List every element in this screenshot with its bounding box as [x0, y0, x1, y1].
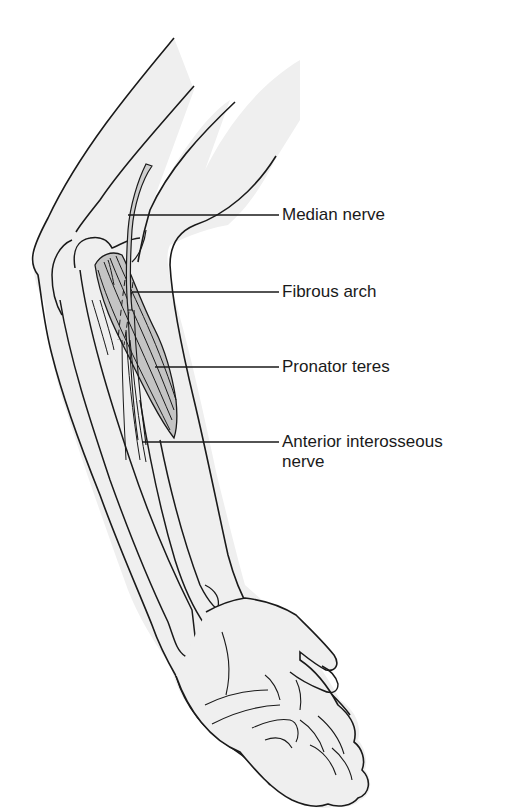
- anatomy-figure: Median nerve Fibrous arch Pronator teres…: [0, 0, 514, 812]
- label-anterior-interosseous-line1: Anterior interosseous: [282, 432, 443, 452]
- label-anterior-interosseous-line2: nerve: [282, 452, 325, 472]
- label-median-nerve: Median nerve: [282, 205, 385, 225]
- label-fibrous-arch: Fibrous arch: [282, 282, 376, 302]
- forearm-illustration: [0, 0, 514, 812]
- label-pronator-teres: Pronator teres: [282, 357, 390, 377]
